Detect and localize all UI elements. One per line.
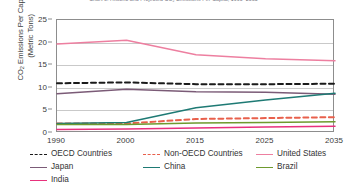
legend-label: Non-OECD Countries	[164, 149, 243, 159]
y-axis-tick-label: 5	[25, 105, 47, 114]
legend-swatch-icon	[143, 154, 160, 155]
y-axis-tick	[48, 19, 52, 20]
y-axis-tick-label: 10	[25, 82, 47, 91]
chart-legend: OECD CountriesNon-OECD CountriesUnited S…	[30, 148, 342, 188]
legend-item[interactable]: Brazil	[256, 161, 297, 173]
x-axis-tick-label: 1990	[47, 136, 65, 145]
legend-swatch-icon	[256, 154, 273, 155]
plot-area	[56, 19, 334, 132]
y-axis-tick	[48, 132, 52, 133]
legend-swatch-icon	[30, 180, 47, 181]
legend-item[interactable]: India	[30, 174, 69, 186]
y-axis-title-line1: CO2 Emissions Per Capita	[16, 0, 25, 81]
legend-label: China	[164, 162, 185, 172]
legend-item[interactable]: OECD Countries	[30, 148, 112, 160]
y-axis-tick-label: 15	[25, 60, 47, 69]
y-axis-tick	[48, 41, 52, 42]
legend-label: Japan	[51, 162, 73, 172]
x-axis-tick-label: 2025	[256, 136, 274, 145]
series-line	[57, 126, 335, 129]
legend-swatch-icon	[30, 154, 47, 155]
legend-item[interactable]: Non-OECD Countries	[143, 148, 243, 160]
y-axis-tick	[48, 64, 52, 65]
y-axis-tick-label: 20	[25, 37, 47, 46]
legend-swatch-icon	[143, 167, 160, 168]
series-lines	[57, 20, 335, 133]
legend-item[interactable]: China	[143, 161, 185, 173]
legend-label: United States	[277, 149, 326, 159]
y-axis-tick-label: 25	[25, 15, 47, 24]
x-axis-tick-label: 2000	[117, 136, 135, 145]
legend-item[interactable]: Japan	[30, 161, 73, 173]
legend-swatch-icon	[256, 167, 273, 168]
chart-figure: Chart 3. Historic and Projected CO₂ Emis…	[0, 0, 347, 189]
legend-label: Brazil	[277, 162, 297, 172]
series-line	[57, 82, 335, 84]
legend-label: OECD Countries	[51, 149, 112, 159]
legend-item[interactable]: United States	[256, 148, 326, 160]
x-axis-tick-label: 2035	[325, 136, 343, 145]
legend-swatch-icon	[30, 167, 47, 168]
chart-title: Chart 3. Historic and Projected CO₂ Emis…	[0, 0, 347, 2]
y-axis-tick	[48, 109, 52, 110]
y-axis-tick-label: 0	[25, 128, 47, 137]
legend-label: India	[51, 175, 69, 185]
series-line	[57, 89, 335, 94]
series-line	[57, 40, 335, 60]
x-axis-tick-label: 2015	[186, 136, 204, 145]
y-axis-tick	[48, 86, 52, 87]
y-axis-labels: 0510152025	[30, 19, 52, 132]
